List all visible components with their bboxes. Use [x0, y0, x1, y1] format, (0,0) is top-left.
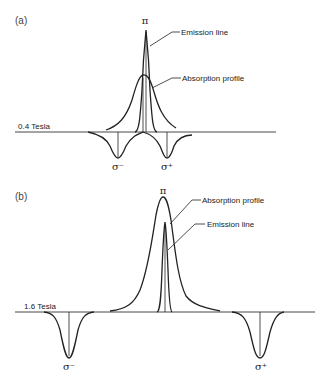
panel-b-absorption-annotation: Absorption profile	[202, 196, 265, 205]
panel-a-sigma-plus-dip	[143, 132, 192, 158]
panel-a-absorption-leader	[152, 78, 181, 88]
panel-b-sigma-plus-label: σ⁺	[255, 361, 267, 372]
panel-a-sigma-plus-label: σ⁺	[161, 161, 173, 172]
panel-b-pi-label: π	[160, 185, 167, 196]
panel-b-absorption-leader	[170, 200, 201, 224]
panel-a-absorption-annotation: Absorption profile	[182, 74, 245, 83]
panel-b: (b) 1.6 Tesla π σ⁻ σ⁺ Absorption profile…	[15, 185, 315, 372]
panel-a: (a) 0.4 Tesla π σ⁻ σ⁺ Emission line Abso…	[15, 15, 276, 172]
panel-b-emission-line	[157, 222, 172, 312]
panel-b-field-label: 1.6 Tesla	[24, 302, 56, 311]
panel-a-label: (a)	[15, 15, 27, 26]
panel-b-emission-annotation: Emission line	[207, 220, 255, 229]
panel-b-label: (b)	[15, 191, 27, 202]
panel-a-field-label: 0.4 Tesla	[18, 122, 50, 131]
panel-b-sigma-minus-label: σ⁻	[63, 361, 75, 372]
panel-a-emission-leader	[150, 32, 180, 46]
panel-a-pi-label: π	[142, 15, 149, 26]
panel-b-sigma-plus-dip	[232, 312, 284, 358]
panel-a-sigma-minus-dip	[88, 132, 143, 158]
zeeman-diagram: (a) 0.4 Tesla π σ⁻ σ⁺ Emission line Abso…	[0, 0, 323, 381]
panel-a-sigma-minus-label: σ⁻	[112, 161, 124, 172]
panel-a-emission-annotation: Emission line	[181, 28, 229, 37]
